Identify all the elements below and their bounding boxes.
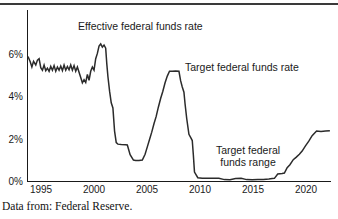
y-tick-label-6: 6%	[1, 49, 23, 60]
y-tick-label-4: 4%	[1, 91, 23, 102]
figure-container: 6% 4% 2% 0% 1995 2000 2005 2010 2015 202…	[0, 0, 338, 219]
figure-caption: Data from: Federal Reserve.	[2, 200, 132, 212]
x-tick-label-2005: 2005	[127, 184, 167, 195]
annotation-effective-federal-funds-rate: Effective federal funds rate	[78, 20, 203, 32]
y-tick-label-0: 0%	[1, 176, 23, 187]
annotation-line-2: funds range	[220, 156, 275, 168]
annotation-line-1: Target federal	[216, 144, 280, 156]
x-tick-label-2020: 2020	[286, 184, 326, 195]
annotation-target-federal-funds-range: Target federal funds range	[199, 144, 297, 168]
annotation-target-federal-funds-rate: Target federal funds rate	[185, 61, 299, 73]
x-tick-label-2015: 2015	[233, 184, 273, 195]
y-tick-label-2: 2%	[1, 134, 23, 145]
x-tick-label-2000: 2000	[74, 184, 114, 195]
x-tick-label-2010: 2010	[180, 184, 220, 195]
x-tick-label-1995: 1995	[21, 184, 61, 195]
